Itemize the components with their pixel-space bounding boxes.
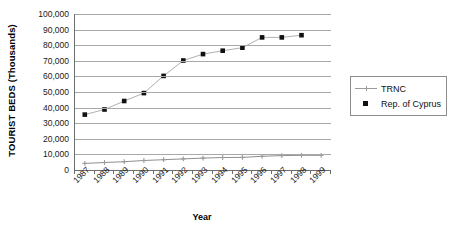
y-tick-label: 70,000 <box>43 56 69 66</box>
plot-area <box>74 14 331 171</box>
data-point-marker <box>240 155 245 160</box>
legend-item-trnc[interactable]: TRNC <box>355 81 441 96</box>
data-point-marker <box>201 52 206 57</box>
data-point-marker <box>299 33 304 38</box>
series-line-rep-of-cyprus <box>85 35 302 114</box>
chart-container: TOURIST BEDS (Thousands) 010,00020,00030… <box>0 0 453 232</box>
gridline <box>75 108 331 109</box>
data-point-marker <box>83 112 88 117</box>
legend-label: TRNC <box>381 84 406 94</box>
y-tick-label: 80,000 <box>43 40 69 50</box>
y-tick-label: 100,000 <box>38 9 69 19</box>
gridline <box>75 139 331 140</box>
x-axis-tick-labels: 1987198819891990199119921993199419951996… <box>74 176 344 210</box>
data-point-marker <box>122 99 127 104</box>
data-point-marker <box>220 155 225 160</box>
gridline <box>75 154 331 155</box>
data-point-marker <box>280 35 285 40</box>
gridline <box>75 30 331 31</box>
gridline <box>75 14 331 15</box>
legend-marker-line-cross-icon <box>355 83 377 94</box>
y-axis-title-text: TOURIST BEDS (Thousands) <box>6 24 17 157</box>
y-axis-tick-labels: 010,00020,00030,00040,00050,00060,00070,… <box>18 8 72 176</box>
y-tick-label: 60,000 <box>43 71 69 81</box>
legend-item-rep-of-cyprus[interactable]: Rep. of Cyprus <box>355 96 441 111</box>
gridline <box>75 45 331 46</box>
data-point-marker <box>161 157 166 162</box>
x-tick-mark <box>330 170 331 174</box>
gridline <box>75 61 331 62</box>
y-tick-label: 90,000 <box>43 25 69 35</box>
data-point-marker <box>181 157 186 162</box>
y-tick-label: 30,000 <box>43 118 69 128</box>
y-tick-label: 40,000 <box>43 103 69 113</box>
data-point-marker <box>142 158 147 163</box>
y-tick-label: 0 <box>64 165 69 175</box>
data-point-marker <box>122 159 127 164</box>
y-tick-label: 10,000 <box>43 149 69 159</box>
data-point-marker <box>240 45 245 50</box>
y-tick-label: 20,000 <box>43 134 69 144</box>
legend-label: Rep. of Cyprus <box>381 99 441 109</box>
y-tick-label: 50,000 <box>43 87 69 97</box>
data-point-marker <box>201 156 206 161</box>
legend-marker-square-icon <box>355 98 377 109</box>
gridline <box>75 92 331 93</box>
x-axis-title: Year <box>74 212 330 222</box>
gridline <box>75 123 331 124</box>
gridline <box>75 76 331 77</box>
data-point-marker <box>220 48 225 53</box>
data-point-marker <box>260 35 265 40</box>
chart-legend: TRNC Rep. of Cyprus <box>350 76 447 116</box>
